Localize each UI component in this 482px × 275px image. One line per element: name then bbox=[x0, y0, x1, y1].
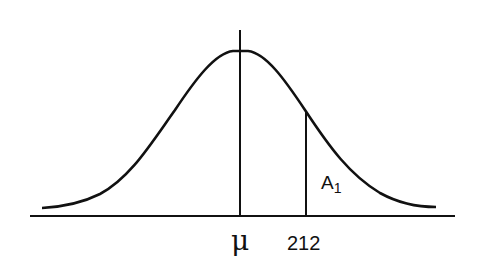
area-label: A1 bbox=[321, 172, 341, 196]
area-label-subscript: 1 bbox=[334, 180, 342, 196]
mean-label: μ bbox=[231, 224, 249, 257]
x-value-label: 212 bbox=[287, 232, 320, 255]
area-label-main: A bbox=[321, 172, 334, 193]
